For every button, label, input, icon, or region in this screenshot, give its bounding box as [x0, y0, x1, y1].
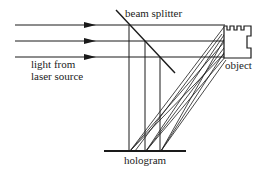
hologram-diagram: [0, 0, 268, 173]
arrow-icons: [84, 22, 96, 60]
light-source-label-line2: laser source: [31, 71, 83, 82]
beam-splitter-label: beam splitter: [125, 8, 182, 19]
object-label: object: [225, 60, 252, 71]
hologram-label: hologram: [124, 155, 166, 166]
light-source-label-line1: light from: [31, 59, 75, 70]
object-shape: [224, 26, 251, 58]
